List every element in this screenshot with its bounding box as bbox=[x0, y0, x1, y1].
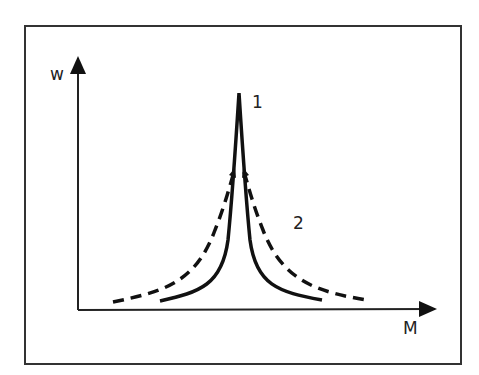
curve-2-dashed bbox=[113, 172, 367, 302]
curve-1-label: 1 bbox=[252, 92, 263, 112]
curve-1-solid bbox=[160, 93, 322, 301]
x-axis-label: M bbox=[403, 318, 418, 338]
curve-2-label: 2 bbox=[293, 213, 304, 233]
y-axis-label: w bbox=[50, 64, 64, 84]
x-axis bbox=[78, 309, 435, 310]
